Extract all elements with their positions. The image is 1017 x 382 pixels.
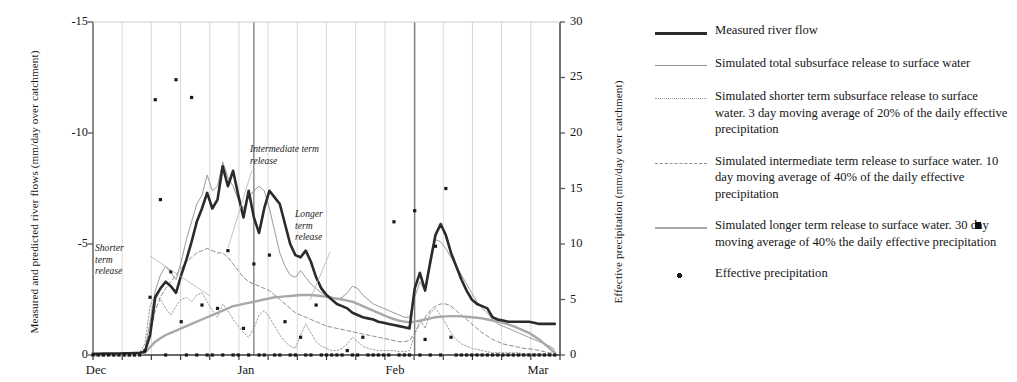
precipitation-point xyxy=(257,353,260,356)
precipitation-point xyxy=(247,353,250,356)
precipitation-point xyxy=(423,338,426,341)
precipitation-point xyxy=(512,353,515,356)
precipitation-point xyxy=(439,353,442,356)
precipitation-point xyxy=(211,353,214,356)
precipitation-point xyxy=(91,353,94,356)
precipitation-point xyxy=(418,353,421,356)
precipitation-point xyxy=(387,353,390,356)
precipitation-point xyxy=(413,209,416,212)
precipitation-point xyxy=(543,353,546,356)
precipitation-point xyxy=(232,353,235,356)
legend-key-solid-thin-grey-icon xyxy=(655,59,711,73)
precipitation-point xyxy=(522,353,525,356)
legend-key-dashed-grey-icon xyxy=(655,157,711,171)
precipitation-point xyxy=(242,327,245,330)
chart-figure: Measured and predicted river flows (mm/d… xyxy=(0,0,620,382)
series-line-solid-thick-black xyxy=(93,166,555,354)
precipitation-point xyxy=(309,353,312,356)
precipitation-point xyxy=(403,353,406,356)
precipitation-point xyxy=(553,353,556,356)
leader-line-longer-term xyxy=(310,252,330,300)
precipitation-point xyxy=(465,353,468,356)
precipitation-point xyxy=(455,353,458,356)
precipitation-point xyxy=(527,353,530,356)
legend-label-effective-precipitation: Effective precipitation xyxy=(711,265,1010,282)
stray-square-mark xyxy=(975,222,981,229)
precipitation-point xyxy=(320,353,323,356)
legend-item-effective-precipitation: Effective precipitation xyxy=(655,265,1010,283)
precipitation-point xyxy=(268,254,271,257)
precipitation-point xyxy=(112,353,115,356)
legend-item-total-subsurface: Simulated total subsurface release to su… xyxy=(655,55,1010,73)
precipitation-point xyxy=(460,353,463,356)
precipitation-point xyxy=(206,353,209,356)
precipitation-point xyxy=(315,303,318,306)
precipitation-point xyxy=(429,353,432,356)
precipitation-point xyxy=(185,353,188,356)
precipitation-point xyxy=(154,98,157,101)
precipitation-point xyxy=(294,353,297,356)
precipitation-point xyxy=(128,353,131,356)
precipitation-point xyxy=(517,353,520,356)
precipitation-point xyxy=(475,353,478,356)
precipitation-point xyxy=(133,353,136,356)
precipitation-point xyxy=(548,353,551,356)
precipitation-point xyxy=(164,353,167,356)
legend-key-solid-thick-grey-icon xyxy=(655,221,711,235)
precipitation-point xyxy=(481,353,484,356)
precipitation-point xyxy=(107,353,110,356)
precipitation-point xyxy=(501,353,504,356)
chart-page: Measured and predicted river flows (mm/d… xyxy=(0,0,1017,382)
legend-item-shorter-term: Simulated shorter term subsurface releas… xyxy=(655,88,1010,138)
precipitation-point xyxy=(486,353,489,356)
legend-key-solid-thick-black-icon xyxy=(655,26,711,40)
annotation-shorter-term-release: Shortertermrelease xyxy=(95,242,124,277)
annotation-longer-term-release: Longertermrelease xyxy=(295,208,323,243)
precipitation-point xyxy=(382,353,385,356)
precipitation-point xyxy=(159,198,162,201)
precipitation-point xyxy=(273,353,276,356)
precipitation-point xyxy=(366,353,369,356)
precipitation-point xyxy=(289,353,292,356)
precipitation-point xyxy=(470,353,473,356)
annotation-intermediate-term-release: Intermediate termrelease xyxy=(250,143,319,166)
precipitation-point xyxy=(226,249,229,252)
precipitation-point xyxy=(143,349,146,352)
precipitation-point xyxy=(237,353,240,356)
legend-label-measured-river-flow: Measured river flow xyxy=(711,22,1010,39)
precipitation-point xyxy=(278,353,281,356)
legend-key-point-marker-icon xyxy=(655,269,711,283)
precipitation-point xyxy=(346,349,349,352)
precipitation-point xyxy=(252,262,255,265)
precipitation-point xyxy=(263,353,266,356)
precipitation-point xyxy=(123,353,126,356)
precipitation-point xyxy=(174,78,177,81)
precipitation-point xyxy=(507,353,510,356)
plot-canvas xyxy=(0,0,620,382)
legend-label-total-subsurface: Simulated total subsurface release to su… xyxy=(711,55,1010,72)
legend: Measured river flow Simulated total subs… xyxy=(655,22,1010,298)
precipitation-point xyxy=(351,353,354,356)
legend-item-longer-term: Simulated longer term release to surface… xyxy=(655,217,1010,250)
precipitation-point xyxy=(361,336,364,339)
legend-label-longer-term: Simulated longer term release to surface… xyxy=(711,217,1010,250)
precipitation-point xyxy=(392,220,395,223)
scatter-effective-precipitation xyxy=(91,78,556,356)
precipitation-point xyxy=(97,353,100,356)
precipitation-point xyxy=(496,353,499,356)
precipitation-point xyxy=(449,336,452,339)
legend-item-measured-river-flow: Measured river flow xyxy=(655,22,1010,40)
precipitation-point xyxy=(325,353,328,356)
precipitation-point xyxy=(330,353,333,356)
precipitation-point xyxy=(398,353,401,356)
leader-line-intermediate-term xyxy=(228,170,252,248)
series-line-solid-thin-grey xyxy=(93,162,555,355)
precipitation-point xyxy=(195,353,198,356)
precipitation-point xyxy=(180,320,183,323)
legend-label-shorter-term: Simulated shorter term subsurface releas… xyxy=(711,88,1010,138)
precipitation-point xyxy=(340,353,343,356)
precipitation-point xyxy=(102,353,105,356)
precipitation-point xyxy=(299,336,302,339)
precipitation-point xyxy=(190,96,193,99)
precipitation-point xyxy=(434,245,437,248)
